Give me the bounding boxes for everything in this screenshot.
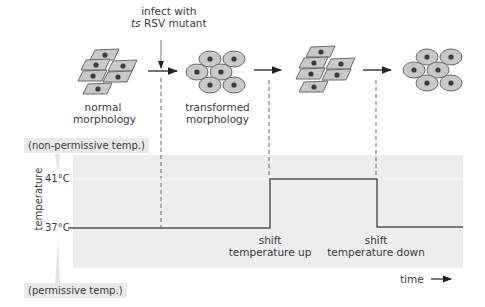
x-axis-label-time: time xyxy=(400,273,424,285)
stage-label-normal: normal morphology xyxy=(73,101,133,125)
transformed-cells-cluster-1 xyxy=(186,51,245,93)
normal-cells-cluster-2 xyxy=(296,46,355,92)
transformed-cells-cluster-2 xyxy=(403,49,462,91)
top-tag-pointer xyxy=(55,154,60,172)
shift-down-label: shift temperature down xyxy=(326,234,426,258)
stage-label-transformed: transformed morphology xyxy=(185,101,250,125)
shift-up-label: shift temperature up xyxy=(228,234,312,258)
y-axis-title: temperature xyxy=(33,171,44,231)
bottom-tag-pointer xyxy=(55,238,60,285)
diagram-graphics xyxy=(0,0,485,307)
non-permissive-tag: (non-permissive temp.) xyxy=(24,138,149,153)
y-tick-37: 37°C xyxy=(45,222,70,233)
infect-label: infect with ts RSV mutant xyxy=(131,5,207,29)
y-tick-41: 41°C xyxy=(45,173,70,184)
normal-cells-cluster-1 xyxy=(78,49,137,94)
temperature-trace xyxy=(73,179,463,228)
permissive-tag: (permissive temp.) xyxy=(24,283,127,298)
